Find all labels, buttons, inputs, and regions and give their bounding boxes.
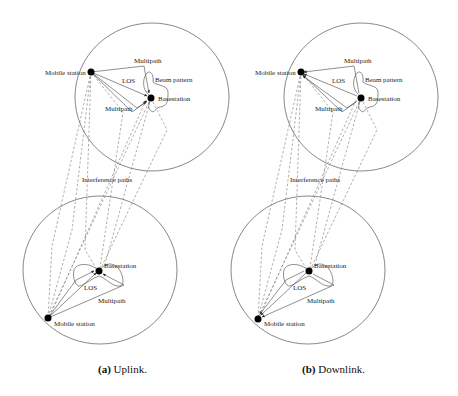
- basestation-dot-bottom: [96, 268, 103, 275]
- label-los-top: LOS: [332, 77, 345, 85]
- label-los-bottom: LOS: [84, 284, 97, 292]
- diagram-canvas: Mobile station Multipath LOS Beam patter…: [0, 0, 458, 396]
- label-interference-paths: Interference paths: [82, 176, 133, 184]
- mobile-station-dot-bottom: [45, 315, 52, 322]
- bottom-signal-paths: [260, 271, 334, 317]
- label-los-bottom: LOS: [293, 284, 306, 292]
- label-multipath-top-upper: Multipath: [344, 57, 372, 65]
- label-beam-pattern: Beam pattern: [365, 76, 403, 84]
- label-mobile-station-bottom: Mobile station: [264, 320, 305, 328]
- label-mobile-station-bottom: Mobile station: [54, 320, 95, 328]
- caption-tag: (a): [98, 363, 111, 375]
- panel-downlink: Mobile station Multipath LOS Beam patter…: [231, 23, 438, 344]
- mobile-station-dot-top: [88, 69, 95, 76]
- label-basestation-bottom: Basestation: [104, 262, 137, 270]
- label-basestation-bottom: Basestation: [314, 262, 347, 270]
- caption-uplink: (a) Uplink.: [98, 363, 147, 375]
- caption-tag: (b): [302, 363, 315, 375]
- basestation-dot-bottom: [306, 268, 313, 275]
- label-multipath-top-lower: Multipath: [105, 105, 133, 113]
- label-basestation-top: Basestation: [368, 95, 401, 103]
- label-multipath-top-upper: Multipath: [134, 57, 162, 65]
- label-interference-paths: Interference paths: [290, 176, 341, 184]
- label-los-top: LOS: [122, 77, 135, 85]
- label-multipath-bottom: Multipath: [307, 297, 335, 305]
- label-basestation-top: Basestation: [158, 95, 191, 103]
- panel-uplink: Mobile station Multipath LOS Beam patter…: [23, 23, 229, 344]
- caption-downlink: (b) Downlink.: [302, 363, 365, 375]
- basestation-dot-top: [148, 95, 155, 102]
- label-mobile-station-top: Mobile station: [255, 69, 296, 77]
- mobile-station-dot-bottom: [255, 316, 262, 323]
- caption-text: Uplink.: [111, 363, 147, 375]
- basestation-dot-top: [358, 95, 365, 102]
- label-multipath-top-lower: Multipath: [315, 105, 343, 113]
- mobile-station-dot-top: [298, 69, 305, 76]
- label-beam-pattern: Beam pattern: [155, 76, 193, 84]
- caption-text: Downlink.: [315, 363, 365, 375]
- label-multipath-bottom: Multipath: [98, 297, 126, 305]
- label-mobile-station-top: Mobile station: [45, 69, 86, 77]
